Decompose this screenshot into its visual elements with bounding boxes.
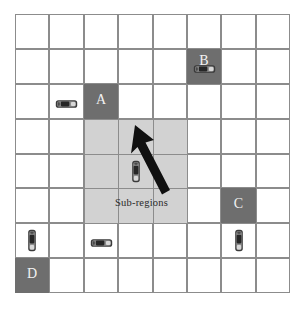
region-block-c: C [221,188,256,223]
grid-cell-r2-c0 [15,84,49,119]
grid-cell-r1-c1 [49,49,84,84]
grid-line-horizontal [15,49,290,50]
grid-cell-r4-c1 [49,154,84,188]
grid-cell-r1-c2 [84,49,118,84]
grid-cell-r3-c1 [49,119,84,154]
grid-cell-r2-c6 [221,84,256,119]
grid-cell-r6-c3 [118,223,153,258]
grid-cell-r1-c4 [153,49,187,84]
region-block-a: A [84,84,118,119]
grid-line-horizontal [15,258,290,259]
region-block-label: D [27,267,37,281]
grid-cell-r7-c4 [153,258,187,293]
grid-cell-r3-c6 [221,119,256,154]
grid-cell-r1-c7 [256,49,290,84]
grid-cell-r4-c6 [221,154,256,188]
grid-line-horizontal [15,84,290,85]
grid-cell-r1-c6 [221,49,256,84]
grid-cell-r5-c0 [15,188,49,223]
grid-line-horizontal [15,223,290,224]
vehicle-icon-car-3 [130,160,142,183]
grid-cell-r7-c2 [84,258,118,293]
vehicle-icon-car-4 [26,229,38,252]
grid-cell-r4-c7 [256,154,290,188]
grid-cell-r7-c7 [256,258,290,293]
region-block-label: C [234,197,243,211]
grid-cell-r2-c7 [256,84,290,119]
grid-cell-r3-c7 [256,119,290,154]
vehicle-icon-car-6 [233,229,245,252]
grid-cell-r0-c3 [118,14,153,49]
grid-container: ABCD Sub-regions [15,14,290,293]
grid-cell-r3-c5 [187,119,221,154]
grid-cell-r6-c5 [187,223,221,258]
grid-cell-r6-c7 [256,223,290,258]
vehicle-icon-car-5 [90,235,113,247]
grid-cell-r6-c1 [49,223,84,258]
grid-cell-r0-c4 [153,14,187,49]
grid-cell-r0-c2 [84,14,118,49]
grid-cell-r5-c1 [49,188,84,223]
grid-cell-r7-c3 [118,258,153,293]
grid-cell-r0-c6 [221,14,256,49]
figure-canvas: ABCD Sub-regions [0,0,305,312]
grid-cell-r1-c0 [15,49,49,84]
region-block-d: D [15,258,49,293]
grid-cell-r1-c3 [118,49,153,84]
grid-cell-r2-c5 [187,84,221,119]
grid-cell-r2-c3 [118,84,153,119]
grid-cell-r2-c4 [153,84,187,119]
grid-cell-r5-c7 [256,188,290,223]
grid-cell-r4-c5 [187,154,221,188]
grid-cell-r7-c5 [187,258,221,293]
grid-cell-r6-c4 [153,223,187,258]
grid-cell-r0-c0 [15,14,49,49]
grid-cell-r5-c5 [187,188,221,223]
grid-cell-r7-c6 [221,258,256,293]
grid-cell-r7-c1 [49,258,84,293]
grid-cell-r0-c7 [256,14,290,49]
grid-cell-r3-c0 [15,119,49,154]
grid-cell-r0-c5 [187,14,221,49]
grid-cell-r4-c0 [15,154,49,188]
grid-line-horizontal [15,119,290,120]
region-block-label: A [96,93,106,107]
grid-cell-r0-c1 [49,14,84,49]
vehicle-icon-car-2 [193,61,216,73]
vehicle-icon-car-1 [55,96,78,108]
